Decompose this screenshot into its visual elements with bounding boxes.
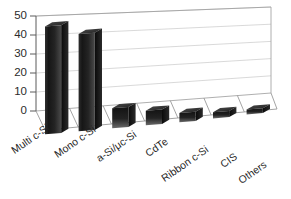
- y-axis-tick-labels: 50 40 30 20 10 0: [14, 9, 27, 116]
- y-tick-label: 50: [14, 9, 27, 21]
- category-label-cdte: CdTe: [143, 135, 170, 159]
- bar-chart-3d: 50 40 30 20 10 0: [0, 0, 291, 199]
- y-axis: [30, 16, 36, 111]
- bar-multi-c-si[interactable]: [45, 21, 68, 134]
- category-label-ribbon-c-si: Ribbon c-Si: [159, 143, 210, 184]
- y-tick-label: 0: [21, 104, 27, 116]
- y-tick-label: 30: [14, 47, 27, 59]
- y-tick-label: 40: [14, 28, 27, 40]
- category-label-a-si-uc-si: a-Si/μc-Si: [94, 128, 138, 164]
- category-label-others: Others: [236, 158, 269, 186]
- x-axis-category-labels: Multi c-Si Mono c-Si a-Si/μc-Si CdTe Rib…: [9, 121, 269, 186]
- category-label-multi-c-si: Multi c-Si: [9, 121, 51, 156]
- chart-container: 50 40 30 20 10 0: [0, 0, 291, 199]
- bar-a-si-uc-si[interactable]: [112, 103, 135, 128]
- y-tick-label: 10: [14, 85, 27, 97]
- category-label-cis: CIS: [218, 150, 239, 170]
- bar-mono-c-si[interactable]: [79, 29, 102, 132]
- y-tick-label: 20: [14, 66, 27, 78]
